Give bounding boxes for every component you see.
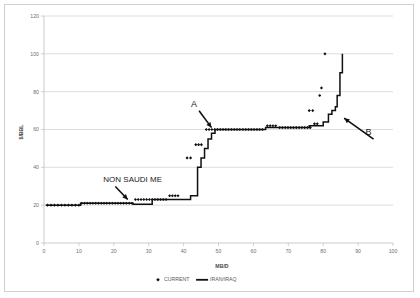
- data-point-marker: [159, 198, 162, 201]
- data-point-marker: [216, 128, 219, 131]
- data-point-marker: [286, 126, 289, 129]
- data-point-marker: [100, 202, 103, 205]
- x-tick-label: 80: [320, 248, 326, 254]
- data-point-marker: [174, 194, 177, 197]
- data-point-marker: [148, 198, 151, 201]
- annotations: ABNON SAUDI ME: [103, 99, 373, 200]
- data-point-marker: [128, 202, 131, 205]
- data-point-marker: [142, 198, 145, 201]
- data-point-marker: [89, 202, 92, 205]
- x-tick-label: 70: [285, 248, 291, 254]
- data-point-marker: [255, 128, 258, 131]
- y-tick-label: 120: [30, 13, 39, 19]
- data-point-marker: [46, 204, 49, 207]
- data-point-marker: [313, 122, 316, 125]
- data-point-marker: [269, 124, 272, 127]
- chart-annotation-label: A: [191, 99, 197, 109]
- data-point-marker: [139, 198, 142, 201]
- data-point-marker: [311, 109, 314, 112]
- chart-figure: 0204060801001200102030405060708090100 AB…: [0, 0, 420, 298]
- data-point-marker: [278, 126, 281, 129]
- data-point-marker: [53, 204, 56, 207]
- data-point-marker: [145, 198, 148, 201]
- data-point-marker: [56, 204, 59, 207]
- data-point-marker: [49, 204, 52, 207]
- data-point-marker: [271, 124, 274, 127]
- data-point-marker: [303, 126, 306, 129]
- chart-legend: CURRENTIRAN/IRAQ: [156, 276, 236, 282]
- x-tick-label: 10: [76, 248, 82, 254]
- data-point-marker: [108, 202, 111, 205]
- data-point-marker: [200, 143, 203, 146]
- x-axis-title: MB/D: [215, 263, 229, 269]
- data-point-marker: [247, 128, 250, 131]
- data-point-marker: [67, 204, 70, 207]
- data-point-marker: [258, 128, 261, 131]
- data-point-marker: [233, 128, 236, 131]
- x-tick-label: 20: [111, 248, 117, 254]
- data-point-marker: [244, 128, 247, 131]
- data-point-marker: [318, 94, 321, 97]
- data-point-marker: [208, 128, 211, 131]
- data-point-marker: [289, 126, 292, 129]
- data-point-marker: [194, 143, 197, 146]
- x-tick-label: 90: [355, 248, 361, 254]
- gridlines: [41, 16, 393, 246]
- data-point-marker: [298, 126, 301, 129]
- data-point-marker: [102, 202, 105, 205]
- y-tick-label: 60: [33, 126, 39, 132]
- data-point-marker: [230, 128, 233, 131]
- data-point-marker: [316, 122, 319, 125]
- data-point-marker: [86, 202, 89, 205]
- data-point-marker: [116, 202, 119, 205]
- data-point-marker: [114, 202, 117, 205]
- data-point-marker: [134, 198, 137, 201]
- data-point-marker: [156, 198, 159, 201]
- y-tick-label: 100: [30, 51, 39, 57]
- data-point-marker: [266, 124, 269, 127]
- data-point-marker: [153, 198, 156, 201]
- data-point-marker: [63, 204, 66, 207]
- y-tick-label: 20: [33, 202, 39, 208]
- data-point-marker: [91, 202, 94, 205]
- y-axis-title: $/BBL: [18, 124, 24, 140]
- y-tick-label: 80: [33, 89, 39, 95]
- data-point-marker: [94, 202, 97, 205]
- data-point-marker: [105, 202, 108, 205]
- data-point-marker: [111, 202, 114, 205]
- data-point-marker: [97, 202, 100, 205]
- data-point-marker: [261, 128, 264, 131]
- annotation-arrow: [115, 186, 127, 199]
- data-point-marker: [308, 109, 311, 112]
- x-tick-label: 30: [146, 248, 152, 254]
- data-point-marker: [70, 204, 73, 207]
- data-point-marker: [284, 126, 287, 129]
- data-point-marker: [224, 128, 227, 131]
- data-point-marker: [292, 126, 295, 129]
- data-point-marker: [189, 156, 192, 159]
- legend-label: IRAN/IRAQ: [210, 276, 237, 282]
- x-tick-label: 0: [43, 248, 46, 254]
- data-point-marker: [221, 128, 224, 131]
- data-point-marker: [300, 126, 303, 129]
- x-tick-label: 60: [251, 248, 257, 254]
- supply-cost-curve-chart: 0204060801001200102030405060708090100 AB…: [0, 0, 420, 298]
- data-point-marker: [250, 128, 253, 131]
- data-point-marker: [122, 202, 125, 205]
- y-tick-label: 40: [33, 164, 39, 170]
- data-point-marker: [238, 128, 241, 131]
- legend-marker-diamond: [156, 278, 160, 282]
- data-point-marker: [219, 128, 222, 131]
- data-point-marker: [241, 128, 244, 131]
- data-point-marker: [176, 194, 179, 197]
- data-point-marker: [83, 202, 86, 205]
- x-tick-label: 50: [216, 248, 222, 254]
- data-point-marker: [320, 86, 323, 89]
- data-point-marker: [197, 143, 200, 146]
- data-point-marker: [281, 126, 284, 129]
- data-point-marker: [295, 126, 298, 129]
- data-point-marker: [125, 202, 128, 205]
- x-tick-label: 100: [389, 248, 398, 254]
- data-point-marker: [253, 128, 256, 131]
- data-point-marker: [162, 198, 165, 201]
